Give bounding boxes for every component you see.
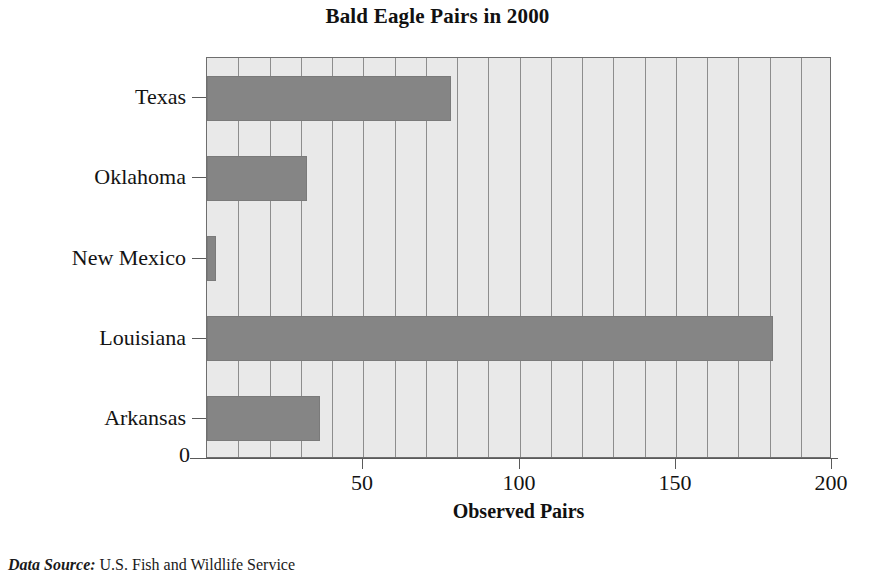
y-axis-category-label: New Mexico [0, 245, 186, 271]
y-axis-tick [192, 258, 206, 259]
source-note-text: U.S. Fish and Wildlife Service [96, 556, 295, 573]
x-axis-tick [362, 458, 363, 469]
plot-area [206, 57, 831, 458]
bar [207, 396, 320, 441]
x-axis-tick-label: 50 [322, 470, 402, 496]
y-axis-tick [192, 338, 206, 339]
y-axis-category-label: Texas [0, 84, 186, 110]
source-note-label: Data Source: [8, 556, 96, 573]
x-axis-tick [675, 458, 676, 469]
y-axis-tick [192, 177, 206, 178]
x-axis-tick-label: 150 [635, 470, 715, 496]
x-axis-tick-label: 200 [791, 470, 871, 496]
bars-layer [207, 58, 830, 457]
x-tick-label-zero: 0 [150, 442, 190, 468]
y-axis-tick [192, 97, 206, 98]
y-axis-category-label: Arkansas [0, 405, 186, 431]
y-axis-tick [192, 418, 206, 419]
bar [207, 236, 216, 281]
chart-title: Bald Eagle Pairs in 2000 [0, 4, 875, 29]
bar [207, 316, 773, 361]
x-axis-tick [831, 458, 832, 469]
bar-chart-figure: Bald Eagle Pairs in 2000 50100150200Texa… [0, 0, 875, 583]
x-axis-tick [519, 458, 520, 469]
x-axis-line [190, 458, 838, 459]
bar [207, 156, 307, 201]
x-axis-tick-label: 100 [479, 470, 559, 496]
source-note: Data Source: U.S. Fish and Wildlife Serv… [8, 556, 295, 574]
y-axis-category-label: Louisiana [0, 325, 186, 351]
x-axis-title: Observed Pairs [206, 500, 831, 523]
y-axis-category-label: Oklahoma [0, 164, 186, 190]
bar [207, 76, 451, 121]
